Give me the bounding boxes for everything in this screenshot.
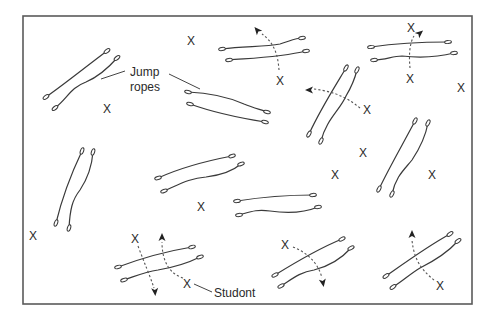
student-x-mark-student-middle-right: X	[359, 146, 367, 160]
rope-handle-icon	[314, 205, 321, 209]
jump-ropes-label-line2: ropes	[130, 80, 160, 94]
student-x-mark-student-top-right-lead: X	[407, 21, 415, 35]
rope-handle-icon	[225, 58, 232, 62]
rope-handle-icon	[233, 199, 240, 203]
student-x-mark-student-right-edge: X	[428, 168, 436, 182]
student-x-mark-student-top-1: X	[187, 34, 195, 48]
student-x-mark-student-bottom-right: X	[436, 279, 444, 293]
student-x-mark-student-center-right: X	[331, 168, 339, 182]
student-x-mark-student-middle-mover: X	[363, 103, 371, 117]
student-x-mark-student-bottom-left-b: X	[183, 277, 191, 291]
rope-handle-icon	[218, 47, 225, 51]
jump-rope-field-diagram: XXXXXXXXXXXXXXXX Jump ropes Studont	[0, 0, 497, 316]
student-x-mark-student-bottom-left-a: X	[131, 232, 139, 246]
rope-handle-icon	[302, 49, 309, 53]
rope-handle-icon	[298, 36, 305, 40]
student-x-mark-student-left-edge: X	[29, 229, 37, 243]
rope-handle-icon	[450, 51, 457, 55]
student-x-mark-student-top-left: X	[103, 102, 111, 116]
student-x-mark-student-bottom-center: X	[281, 238, 289, 252]
student-x-mark-student-top-center-mover: X	[276, 74, 284, 88]
rope-handle-icon	[370, 58, 377, 62]
rope-handle-icon	[445, 40, 452, 44]
rope-handle-icon	[368, 45, 375, 49]
rope-handle-icon	[235, 213, 242, 217]
student-x-mark-student-far-right-upper: X	[457, 81, 465, 95]
student-x-mark-student-center: X	[197, 200, 205, 214]
student-x-mark-student-top-right-mover: X	[406, 72, 414, 86]
student-label: Studont	[214, 286, 256, 300]
rope-handle-icon	[309, 193, 316, 197]
jump-ropes-label-line1: Jump	[130, 65, 160, 79]
